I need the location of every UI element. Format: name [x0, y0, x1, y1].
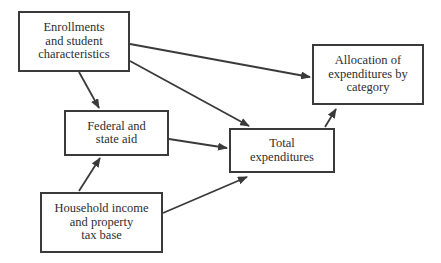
node-label-line: tax base: [54, 229, 148, 243]
node-label-line: Total: [250, 137, 314, 151]
node-label-line: expenditures: [250, 151, 314, 165]
node-label-line: Federal and: [87, 120, 146, 134]
arrow-total-to-allocation: [325, 109, 336, 127]
node-label-line: category: [328, 81, 408, 95]
node-label-line: Allocation of: [328, 54, 408, 68]
node-label-line: and student: [38, 35, 109, 49]
arrow-aid-to-total: [169, 139, 227, 148]
node-enrollments: Enrollments and student characteristics: [18, 11, 130, 72]
node-label-line: expenditures by: [328, 68, 408, 82]
arrow-enrollments-to-aid: [79, 72, 99, 108]
node-label-line: Enrollments: [38, 21, 109, 35]
arrow-household-to-total: [163, 177, 247, 213]
node-household-income: Household income and property tax base: [40, 192, 163, 253]
node-label-line: Household income: [54, 202, 148, 216]
node-label-line: state aid: [87, 133, 146, 147]
node-label-line: and property: [54, 216, 148, 230]
arrow-enrollments-to-allocation: [130, 44, 310, 77]
arrow-household-to-aid: [79, 158, 100, 191]
node-total-expenditures: Total expenditures: [229, 128, 335, 173]
node-federal-state-aid: Federal and state aid: [64, 110, 169, 156]
node-label-line: characteristics: [38, 48, 109, 62]
node-allocation-by-category: Allocation of expenditures by category: [312, 44, 424, 105]
